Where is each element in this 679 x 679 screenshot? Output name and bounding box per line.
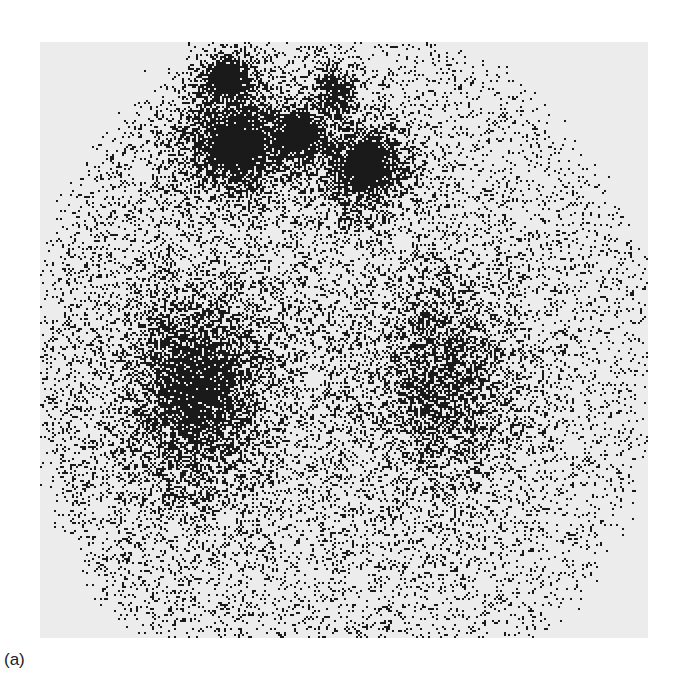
scintigraphy-image	[40, 42, 648, 638]
scan-stipple-canvas	[40, 42, 648, 638]
figure-caption: (a)	[4, 650, 25, 670]
